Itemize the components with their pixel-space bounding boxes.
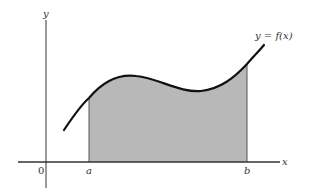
y-axis-label: y <box>43 9 49 19</box>
x-axis-label: x <box>282 157 288 167</box>
upper-bound-label: b <box>244 166 250 176</box>
function-label: y = f(x) <box>255 31 293 41</box>
origin-label: 0 <box>38 166 44 176</box>
lower-bound-label: a <box>86 166 92 176</box>
